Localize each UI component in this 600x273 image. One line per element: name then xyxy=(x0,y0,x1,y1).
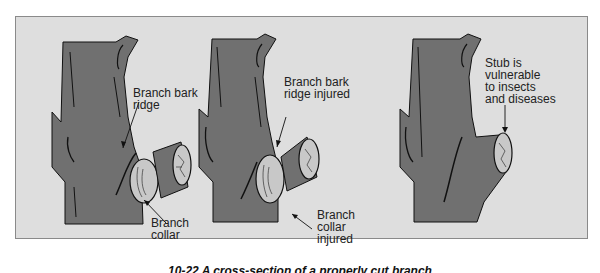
label-stub-vulnerable: Stub is vulnerable to insects and diseas… xyxy=(485,57,556,105)
label-branch-bark-ridge-injured: Branch bark ridge injured xyxy=(284,76,350,100)
figure-caption: 10-22 A cross-section of a properly cut … xyxy=(0,263,600,273)
tree-flush-cut-illustration xyxy=(165,17,365,240)
figure-frame: Branch bark ridge Branch collar Branch b… xyxy=(15,16,588,239)
tree-stub-cut-illustration xyxy=(364,17,589,240)
label-branch-collar-injured: Branch collar injured xyxy=(317,209,355,245)
